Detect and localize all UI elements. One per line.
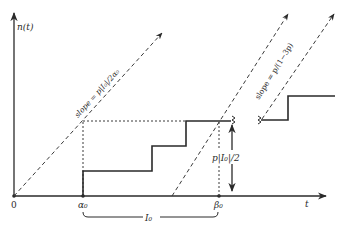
alpha-label: α₀ bbox=[78, 200, 88, 210]
origin-label: 0 bbox=[11, 200, 17, 210]
interval-label: I₀ bbox=[144, 213, 153, 223]
staircase-path bbox=[83, 121, 231, 196]
x-axis-label: t bbox=[305, 199, 309, 209]
y-axis-label: n(t) bbox=[17, 22, 34, 32]
break-mark-left bbox=[232, 116, 235, 124]
staircase-continuation bbox=[261, 96, 335, 120]
slope-2-label: slope = p/(1−3p) bbox=[253, 41, 295, 101]
staircase-diagram: n(t) t 0 slope = p|I₀|/2α₀ slope = p/(1−… bbox=[0, 0, 342, 226]
slope-1-label: slope = p|I₀|/2α₀ bbox=[73, 67, 121, 119]
slope-line-2 bbox=[172, 14, 288, 196]
break-mark-right bbox=[258, 116, 261, 124]
beta-label: β₀ bbox=[213, 200, 223, 210]
height-label: p|I₀|/2 bbox=[212, 153, 240, 164]
